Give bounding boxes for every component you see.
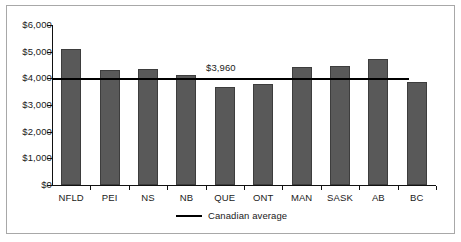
- y-axis-tick-label: $1,000: [8, 153, 52, 163]
- x-axis-tick: [398, 186, 399, 190]
- y-axis-tick-label-row: $2,000: [0, 127, 52, 137]
- bar: [138, 69, 158, 185]
- x-axis-label: QUE: [206, 192, 244, 204]
- x-axis-tick: [206, 186, 207, 190]
- y-axis-line: [52, 25, 53, 186]
- plot-area: $0$1,000$2,000$3,000$4,000$5,000$6,000 N…: [0, 0, 461, 242]
- x-axis-tick: [436, 186, 437, 190]
- bar: [215, 87, 235, 185]
- x-axis-tick: [167, 186, 168, 190]
- y-axis-tick-label-row: $0: [0, 180, 52, 190]
- bar: [61, 49, 81, 185]
- bar-chart-figure: $0$1,000$2,000$3,000$4,000$5,000$6,000 N…: [0, 0, 461, 242]
- x-axis-label: AB: [359, 192, 397, 204]
- y-axis-tick-label: $0: [8, 180, 52, 190]
- x-axis-label: PEI: [90, 192, 128, 204]
- bar: [253, 84, 273, 185]
- y-axis-tick-label: $5,000: [8, 47, 52, 57]
- x-axis-tick: [321, 186, 322, 190]
- y-axis-tick-label: $6,000: [8, 20, 52, 30]
- y-axis-tick-label-row: $1,000: [0, 153, 52, 163]
- bar: [292, 67, 312, 185]
- canadian-average-line: [52, 78, 409, 80]
- bar: [330, 66, 350, 185]
- y-axis-tick-label-row: $6,000: [0, 20, 52, 30]
- x-axis-label: NFLD: [52, 192, 90, 204]
- y-axis-tick-label-row: $4,000: [0, 73, 52, 83]
- legend-line-swatch-icon: [176, 215, 202, 217]
- y-axis-tick-label-row: $3,000: [0, 100, 52, 110]
- x-axis-label: BC: [398, 192, 436, 204]
- bar: [100, 70, 120, 185]
- x-axis-tick: [90, 186, 91, 190]
- x-axis-label: NB: [167, 192, 205, 204]
- bar: [176, 75, 196, 185]
- legend-item-label: Canadian average: [208, 210, 287, 221]
- chart-legend: Canadian average: [176, 210, 287, 221]
- x-axis-tick: [129, 186, 130, 190]
- x-axis-label: MAN: [282, 192, 320, 204]
- x-axis-label: NS: [129, 192, 167, 204]
- x-axis-tick: [244, 186, 245, 190]
- canadian-average-value-label: $3,960: [206, 62, 236, 73]
- x-axis-tick: [282, 186, 283, 190]
- y-axis-tick-label: $3,000: [8, 100, 52, 110]
- y-axis-tick-label: $2,000: [8, 127, 52, 137]
- bar: [407, 82, 427, 185]
- y-axis-tick-label: $4,000: [8, 73, 52, 83]
- x-axis-tick: [359, 186, 360, 190]
- x-axis-label: ONT: [244, 192, 282, 204]
- y-axis-tick-label-row: $5,000: [0, 47, 52, 57]
- x-axis-label: SASK: [321, 192, 359, 204]
